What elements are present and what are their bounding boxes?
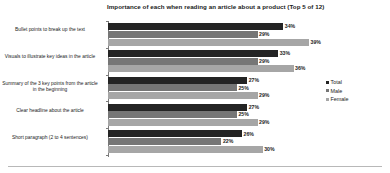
bar-total[interactable] xyxy=(108,77,247,84)
bar-group: Clear headline about the article27%25%29… xyxy=(108,101,340,128)
bar-value-label: 27% xyxy=(249,77,259,84)
bar-value-label: 27% xyxy=(249,104,259,111)
bar-row: 22% xyxy=(108,138,340,145)
bar-row: 25% xyxy=(108,84,340,91)
bar-male[interactable] xyxy=(108,111,237,118)
bar-row: 29% xyxy=(108,92,340,99)
legend-item-female[interactable]: Female xyxy=(326,95,348,104)
category-label: Summary of the 3 key points from the art… xyxy=(0,81,100,93)
bar-female[interactable] xyxy=(108,39,309,46)
bar-total[interactable] xyxy=(108,50,278,57)
bar-group: Bullet points to break up the text34%29%… xyxy=(108,21,340,48)
bar-row: 26% xyxy=(108,130,340,137)
axis-tick xyxy=(106,155,108,156)
bar-row: 34% xyxy=(108,23,340,30)
bar-row: 36% xyxy=(108,65,340,72)
legend-item-male[interactable]: Male xyxy=(326,87,348,96)
bar-value-label: 34% xyxy=(285,23,295,30)
bar-total[interactable] xyxy=(108,104,247,111)
bar-group: Summary of the 3 key points from the art… xyxy=(108,75,340,102)
bar-row: 27% xyxy=(108,77,340,84)
axis-tick xyxy=(106,75,108,76)
bar-male[interactable] xyxy=(108,58,258,65)
bar-total[interactable] xyxy=(108,23,283,30)
axis-tick xyxy=(106,128,108,129)
axis-tick xyxy=(106,21,108,22)
bar-value-label: 29% xyxy=(259,58,269,65)
bar-row: 29% xyxy=(108,31,340,38)
bar-female[interactable] xyxy=(108,92,258,99)
bar-value-label: 29% xyxy=(259,119,269,126)
bar-value-label: 26% xyxy=(244,131,254,138)
bar-male[interactable] xyxy=(108,31,258,38)
legend-label-total: Total xyxy=(331,79,342,85)
bar-value-label: 29% xyxy=(259,31,269,38)
bar-male[interactable] xyxy=(108,84,237,91)
chart-legend: Total Male Female xyxy=(326,78,348,104)
legend-swatch-total-icon xyxy=(326,81,329,84)
bar-male[interactable] xyxy=(108,138,221,145)
bar-row: 29% xyxy=(108,119,340,126)
bar-row: 30% xyxy=(108,146,340,153)
bar-value-label: 36% xyxy=(295,65,305,72)
bar-total[interactable] xyxy=(108,130,242,137)
bar-female[interactable] xyxy=(108,119,258,126)
legend-item-total[interactable]: Total xyxy=(326,78,348,87)
bar-group: Short paragraph (2 to 4 sentences)26%22%… xyxy=(108,128,340,155)
footer-divider xyxy=(8,166,382,167)
bar-row: 25% xyxy=(108,111,340,118)
chart-title: Importance of each when reading an artic… xyxy=(107,3,369,11)
bar-value-label: 22% xyxy=(223,138,233,145)
bar-group: Visuals to illustrate key ideas in the a… xyxy=(108,48,340,75)
bar-female[interactable] xyxy=(108,65,294,72)
chart-container: Importance of each when reading an artic… xyxy=(0,0,390,173)
category-label: Bullet points to break up the text xyxy=(0,27,100,33)
bar-value-label: 33% xyxy=(280,50,290,57)
bar-value-label: 25% xyxy=(238,85,248,92)
category-label: Short paragraph (2 to 4 sentences) xyxy=(0,135,100,141)
category-label: Clear headline about the article xyxy=(0,108,100,114)
axis-tick xyxy=(106,101,108,102)
plot-area: Bullet points to break up the text34%29%… xyxy=(108,21,340,155)
bar-row: 29% xyxy=(108,58,340,65)
bar-row: 27% xyxy=(108,104,340,111)
bar-value-label: 39% xyxy=(311,39,321,46)
legend-label-male: Male xyxy=(331,88,343,94)
axis-tick xyxy=(106,48,108,49)
bar-value-label: 29% xyxy=(259,92,269,99)
legend-label-female: Female xyxy=(331,96,349,102)
bar-row: 39% xyxy=(108,39,340,46)
bar-value-label: 30% xyxy=(264,146,274,153)
category-label: Visuals to illustrate key ideas in the a… xyxy=(0,54,100,60)
legend-swatch-female-icon xyxy=(326,98,329,101)
bar-value-label: 25% xyxy=(238,111,248,118)
bar-row: 33% xyxy=(108,50,340,57)
legend-swatch-male-icon xyxy=(326,89,329,92)
bar-female[interactable] xyxy=(108,146,263,153)
